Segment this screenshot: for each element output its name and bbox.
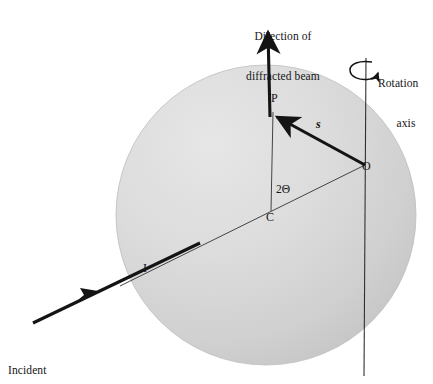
rotation-axis-caption-line1: Rotation: [378, 77, 433, 90]
rotation-axis-caption-line2: axis: [378, 117, 433, 130]
point-label-o: O: [362, 160, 371, 174]
scattering-angle-label: 2Θ: [276, 183, 290, 196]
diffracted-beam-caption: Direction of diffracted beam: [203, 4, 363, 109]
diffraction-figure: Direction of diffracted beam Rotation ax…: [0, 0, 433, 384]
point-label-p: P: [271, 92, 278, 106]
diffracted-beam-caption-line2: diffracted beam: [203, 70, 363, 83]
point-label-c: C: [266, 211, 274, 225]
point-label-i: I: [143, 262, 147, 276]
diffracted-beam-caption-line1: Direction of: [203, 30, 363, 43]
rotation-axis-caption: Rotation axis: [378, 51, 433, 156]
incident-beam-caption: Incident beam: [8, 338, 80, 384]
scattering-vector-label: s: [316, 118, 321, 132]
incident-beam-caption-line1: Incident: [8, 364, 80, 377]
incident-beam-arrowhead-icon: [78, 288, 101, 300]
